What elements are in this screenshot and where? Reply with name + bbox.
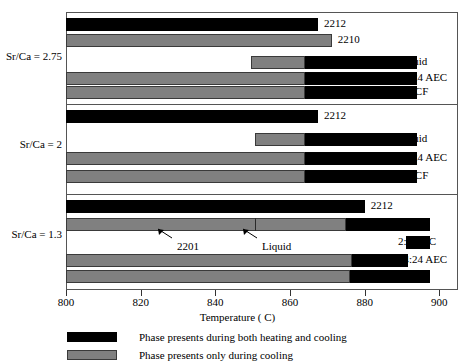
legend-item-cooling: Phase presents only during cooling bbox=[67, 348, 467, 362]
bar-14-24-aec bbox=[66, 254, 408, 267]
annotation-label: Liquid bbox=[262, 240, 291, 252]
bar-2-4-cf bbox=[66, 270, 430, 283]
series-label-liquid: Liquid bbox=[398, 55, 427, 67]
annotation-arrow-icon bbox=[156, 227, 176, 242]
series-label-liquid: Liquid bbox=[398, 217, 427, 229]
legend-swatch-gray bbox=[67, 350, 117, 360]
bar-value-label: 2212 bbox=[324, 109, 346, 121]
bar-2212 bbox=[66, 110, 318, 123]
bar-segment-cooling bbox=[255, 133, 305, 146]
bar-2212 bbox=[66, 18, 318, 31]
bar-liquid bbox=[255, 133, 417, 146]
bar-segment-cooling bbox=[66, 270, 350, 283]
legend: Phase presents during both heating and c… bbox=[67, 330, 467, 363]
bar-14-24-aec bbox=[66, 152, 417, 165]
group-label-0: Sr/Ca = 2.75 bbox=[0, 50, 62, 62]
bar-2-4-cf bbox=[66, 170, 417, 183]
series-label-14-24-aec: 14:24 AEC bbox=[398, 71, 447, 83]
bar-segment-both bbox=[66, 110, 318, 123]
bar-segment-cooling bbox=[66, 254, 352, 267]
series-label-2-1-aec: 2:1 AEC bbox=[398, 235, 436, 247]
series-label-liquid: Liquid bbox=[398, 132, 427, 144]
bar-liquid bbox=[251, 56, 417, 69]
bar-value-label: 2210 bbox=[338, 33, 360, 45]
axis-tick-label: 860 bbox=[270, 296, 310, 308]
bar-2-4-cf bbox=[66, 86, 417, 99]
bar-segment-cooling bbox=[251, 56, 305, 69]
bar-14-24-aec bbox=[66, 72, 417, 85]
bar-segment-cooling bbox=[66, 34, 332, 47]
bar-2210 bbox=[66, 34, 332, 47]
bar-segment-both bbox=[66, 18, 318, 31]
legend-label-both: Phase presents during both heating and c… bbox=[139, 331, 347, 343]
bar-value-label: 2212 bbox=[324, 17, 346, 29]
series-label-2-4-cf: 2:4 CF bbox=[398, 85, 428, 97]
bar-segment-cooling bbox=[66, 86, 305, 99]
legend-item-both: Phase presents during both heating and c… bbox=[67, 330, 467, 344]
axis-tick-label: 800 bbox=[46, 296, 86, 308]
bar-2212 bbox=[66, 200, 365, 213]
series-label-2-4-cf: 2:4 CF bbox=[398, 169, 428, 181]
bar-segment-cooling bbox=[66, 218, 346, 231]
legend-swatch-black bbox=[67, 332, 117, 342]
axis-title: Temperature ( C) bbox=[0, 311, 475, 323]
chart-root: Sr/Ca = 2.7522122210Liquid14:24 AEC2:4 C… bbox=[0, 0, 475, 363]
legend-label-cooling: Phase presents only during cooling bbox=[139, 349, 293, 361]
series-label-14-24-aec: 14:24 AEC bbox=[398, 151, 447, 163]
annotation-label: 2201 bbox=[177, 240, 199, 252]
bar-value-label: 2212 bbox=[371, 199, 393, 211]
bar-segment-cooling bbox=[66, 152, 305, 165]
axis-tick-label: 840 bbox=[195, 296, 235, 308]
axis-tick-label: 820 bbox=[121, 296, 161, 308]
panel-divider-2 bbox=[67, 194, 457, 195]
series-label-2-4-cf: 2:4 CF bbox=[398, 269, 428, 281]
bar-segment-cooling bbox=[66, 170, 305, 183]
group-label-1: Sr/Ca = 2 bbox=[0, 138, 62, 150]
group-label-2: Sr/Ca = 1.3 bbox=[0, 228, 62, 240]
bar-segment-both bbox=[66, 200, 365, 213]
axis-tick-label: 880 bbox=[345, 296, 385, 308]
series-label-14-24-aec: 14:24 AEC bbox=[398, 253, 447, 265]
bar-segment-cooling bbox=[66, 72, 305, 85]
panel-divider-1 bbox=[67, 104, 457, 105]
axis-tick-label: 900 bbox=[419, 296, 459, 308]
annotation-arrow-icon bbox=[241, 227, 261, 242]
